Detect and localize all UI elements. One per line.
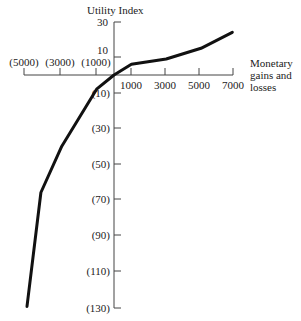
utility-curve — [27, 32, 232, 306]
x-tick-label: 7000 — [222, 79, 245, 91]
y-tick-label: (50) — [92, 158, 111, 171]
y-tick-label: (130) — [86, 302, 110, 315]
x-tick-label: (1000) — [81, 56, 111, 69]
y-tick-label: (90) — [92, 229, 111, 242]
y-tick-label: (70) — [92, 193, 111, 206]
y-ticks — [114, 22, 121, 308]
x-tick-label: (5000) — [9, 56, 39, 69]
y-tick-label: (30) — [92, 122, 111, 135]
y-tick-label: (110) — [87, 265, 111, 278]
x-axis-label: Monetary — [250, 57, 293, 69]
x-ticks — [24, 68, 233, 75]
x-tick-label: (3000) — [45, 56, 75, 69]
x-axis-label: losses — [250, 81, 276, 93]
y-tick-label: 10 — [97, 44, 109, 56]
utility-chart: Utility Index 30 10 (10) (30) (50) (70) … — [0, 0, 301, 321]
x-tick-label: 1000 — [120, 79, 143, 91]
y-tick-label: 30 — [97, 16, 109, 28]
x-tick-label: 3000 — [154, 79, 177, 91]
y-axis-label: Utility Index — [87, 4, 144, 16]
x-tick-label: 5000 — [188, 79, 211, 91]
x-axis-label: gains and — [250, 69, 292, 81]
